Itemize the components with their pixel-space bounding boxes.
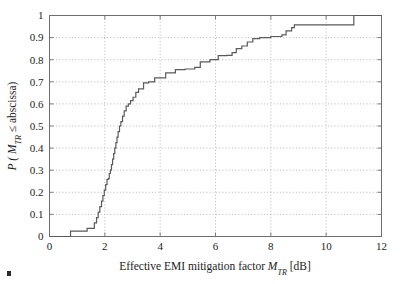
y-tick-label: 0 [38,230,44,242]
x-tick-label: 6 [213,240,219,252]
x-tick-label: 4 [157,240,163,252]
y-tick-label: 0.7 [30,76,44,88]
y-tick-label: 0.6 [30,98,44,110]
x-tick-label: 12 [376,240,387,252]
x-tick-label: 2 [102,240,108,252]
y-tick-label: 0.9 [30,31,44,43]
x-tick-label: 8 [268,240,274,252]
ecdf-chart: 024681012 00.10.20.30.40.50.60.70.80.91 … [0,0,400,284]
y-tick-label: 1 [38,9,44,21]
y-tick-label: 0.4 [30,142,44,154]
y-tick-label: 0.8 [30,54,44,66]
y-tick-label: 0.1 [30,208,44,220]
y-tick-label: 0.5 [30,120,44,132]
y-tick-label: 0.2 [30,186,44,198]
x-tick-label: 0 [47,240,53,252]
page-corner-mark [7,271,11,276]
x-tick-label: 10 [321,240,333,252]
figure-background [0,0,400,284]
figure-container: 024681012 00.10.20.30.40.50.60.70.80.91 … [0,0,400,284]
y-tick-label: 0.3 [30,164,44,176]
